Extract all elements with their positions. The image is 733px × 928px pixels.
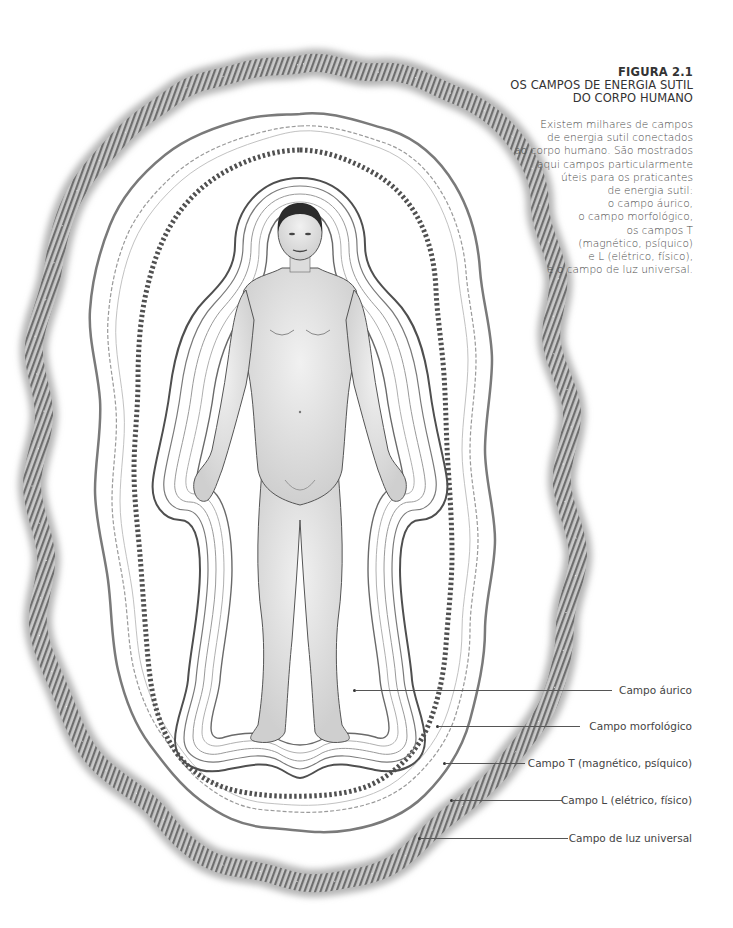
description-line: úteis para os praticantes (453, 171, 693, 184)
description-line: de energia sutil conectados (453, 131, 693, 144)
auric-field-leader (355, 690, 612, 691)
label-morphological-field: Campo morfológico (589, 720, 692, 732)
morphological-field-leader (438, 726, 580, 727)
description-line: ao corpo humano. São mostrados (453, 144, 693, 157)
description-line: de energia sutil: (453, 184, 693, 197)
figure-caption: FIGURA 2.1 OS CAMPOS DE ENERGIA SUTIL DO… (453, 66, 693, 276)
description-line: o campo morfológico, (453, 210, 693, 223)
label-l-field: Campo L (elétrico, físico) (561, 794, 692, 806)
description-line: os campos T (453, 224, 693, 237)
description-line: (magnético, psíquico) (453, 237, 693, 250)
figure-title-line-2: DO CORPO HUMANO (453, 92, 693, 105)
t-field-leader (445, 763, 525, 764)
label-t-field: Campo T (magnético, psíquico) (528, 757, 692, 769)
universal-light-field-leader (420, 838, 568, 839)
description-line: Existem milhares de campos (453, 118, 693, 131)
label-auric-field: Campo áurico (619, 684, 692, 696)
description-line: e L (elétrico, físico), (453, 250, 693, 263)
human-figure (194, 203, 407, 743)
description-line: o campo áurico, (453, 197, 693, 210)
figure-description: Existem milhares de campos de energia su… (453, 118, 693, 276)
label-universal-light-field: Campo de luz universal (569, 832, 692, 844)
description-line: aqui campos particularmente (453, 158, 693, 171)
description-line: e o campo de luz universal. (453, 263, 693, 276)
l-field-leader (452, 800, 562, 801)
